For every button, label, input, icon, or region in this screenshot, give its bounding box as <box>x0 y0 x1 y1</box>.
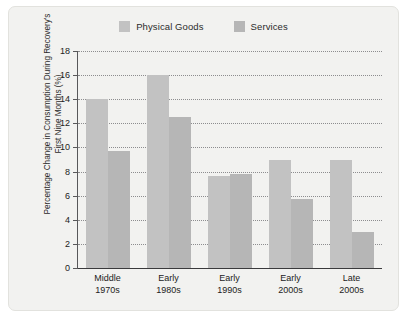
bar <box>86 99 108 268</box>
legend-swatch-icon <box>234 21 245 32</box>
y-axis-tick-label: 4 <box>65 215 70 225</box>
bar-group <box>208 51 252 268</box>
x-axis-label: Early2000s <box>261 273 321 296</box>
y-axis-tick-label: 18 <box>60 46 70 56</box>
y-axis-tick-label: 12 <box>60 118 70 128</box>
bar <box>208 176 230 268</box>
y-axis-tick-label: 6 <box>65 191 70 201</box>
legend-item-services: Services <box>234 21 288 32</box>
bar <box>230 174 252 268</box>
legend-label: Physical Goods <box>136 21 203 32</box>
bar <box>291 199 313 268</box>
chart-legend: Physical Goods Services <box>9 21 398 32</box>
bar-group <box>86 51 130 268</box>
bar <box>330 160 352 269</box>
bars-layer <box>78 51 382 268</box>
bar <box>147 75 169 268</box>
legend-item-physical-goods: Physical Goods <box>119 21 203 32</box>
y-axis-tick-label: 16 <box>60 70 70 80</box>
bar-group <box>147 51 191 268</box>
x-axis-label: Early1990s <box>200 273 260 296</box>
chart-card: Physical Goods Services Percentage Chang… <box>8 6 399 311</box>
y-axis-tick-label: 0 <box>65 263 70 273</box>
legend-swatch-icon <box>119 21 130 32</box>
y-axis-tick-label: 10 <box>60 142 70 152</box>
bar <box>108 151 130 268</box>
legend-label: Services <box>251 21 288 32</box>
x-axis-label: Early1980s <box>139 273 199 296</box>
bar <box>269 160 291 269</box>
x-axis-labels: Middle1970sEarly1980sEarly1990sEarly2000… <box>77 273 382 296</box>
plot-inner: 181614121086420 <box>77 51 382 269</box>
bar-group <box>330 51 374 268</box>
y-axis-tick-label: 8 <box>65 167 70 177</box>
bar <box>169 117 191 268</box>
plot-area: 181614121086420 <box>77 51 382 269</box>
y-axis-tick-label: 14 <box>60 94 70 104</box>
x-axis-label: Late2000s <box>322 273 382 296</box>
bar <box>352 232 374 268</box>
y-axis-title: Percentage Change in Consumption During … <box>42 7 64 222</box>
y-axis-tick-label: 2 <box>65 239 70 249</box>
y-axis-tick <box>73 268 78 269</box>
x-axis-label: Middle1970s <box>78 273 138 296</box>
bar-group <box>269 51 313 268</box>
